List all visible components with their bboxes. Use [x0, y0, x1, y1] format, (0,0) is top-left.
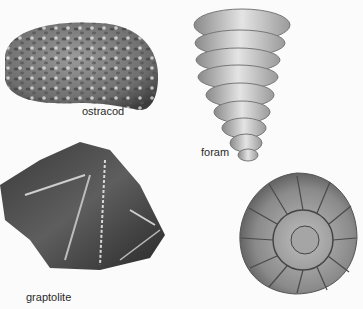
ostracod-label: ostracod: [82, 105, 124, 117]
foram-illustration: [192, 5, 292, 165]
foram-label: foram: [201, 146, 229, 158]
graptolite-illustration: [0, 130, 170, 280]
ostracod-illustration: [0, 15, 165, 115]
ammonite-illustration: [235, 168, 360, 296]
graptolite-label: graptolite: [26, 291, 71, 303]
